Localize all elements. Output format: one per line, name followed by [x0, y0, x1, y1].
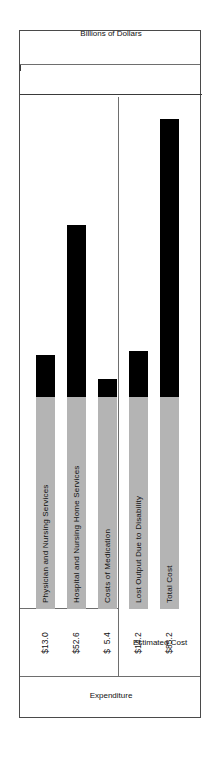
axis-tick — [20, 65, 21, 71]
bar-lane: Lost Output Due to Disability — [129, 95, 148, 609]
category-label: Total Cost — [160, 565, 179, 603]
category-label: Lost Output Due to Disability — [129, 496, 148, 603]
category-label: Costs of Medication — [98, 529, 117, 603]
plot-area: Physician and Nursing ServicesHospital a… — [20, 95, 202, 609]
bar-lane: Hospital and Nursing Home Services — [67, 95, 86, 609]
bar[interactable] — [98, 379, 117, 397]
value-label: $52.6 — [67, 609, 86, 677]
chart-page: Expenditure Estimated Cost Billions of D… — [0, 0, 220, 761]
figure-frame: Expenditure Estimated Cost Billions of D… — [19, 30, 201, 718]
bar-lane: Physician and Nursing Services — [36, 95, 55, 609]
rotated-figure: Expenditure Estimated Cost Billions of D… — [19, 30, 201, 718]
category-label: Physician and Nursing Services — [36, 485, 55, 604]
category-label: Hospital and Nursing Home Services — [67, 465, 86, 603]
bar[interactable] — [129, 351, 148, 397]
value-label: $14.2 — [129, 609, 148, 677]
bar[interactable] — [160, 119, 179, 397]
axis-title-billions: Billions of Dollars — [20, 31, 202, 65]
bar[interactable] — [67, 225, 86, 397]
bar-lane: Total Cost — [160, 95, 179, 609]
value-label: $ 5.4 — [98, 609, 117, 677]
bar[interactable] — [36, 355, 55, 397]
value-label: $85.2 — [160, 609, 179, 677]
bar-lane: Costs of Medication — [98, 95, 117, 609]
value-axis: 01020304050607080 — [20, 65, 202, 95]
value-label: $13.0 — [36, 609, 55, 677]
value-label-column: $13.0$52.6$ 5.4$14.2$85.2 — [20, 609, 202, 677]
